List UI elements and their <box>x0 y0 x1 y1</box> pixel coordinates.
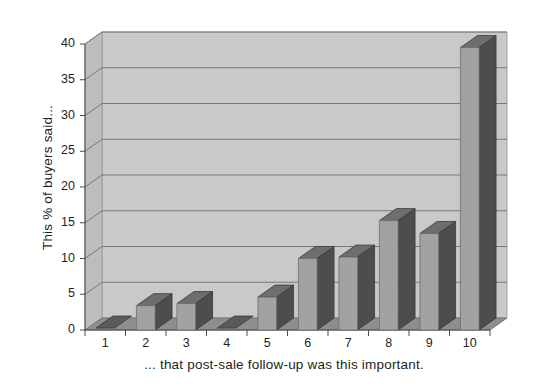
y-tick-label-35: 35 <box>49 72 75 86</box>
x-tick-label-2: 2 <box>126 336 167 350</box>
bar-side-10 <box>479 36 496 330</box>
plot-area <box>0 0 534 389</box>
y-tick-label-10: 10 <box>49 251 75 265</box>
bar-7 <box>339 257 358 330</box>
x-tick-label-9: 9 <box>409 336 450 350</box>
x-tick-label-4: 4 <box>207 336 248 350</box>
y-tick-label-20: 20 <box>49 179 75 193</box>
chart-figure: This % of buyers said... ... that post-s… <box>0 0 534 389</box>
y-tick-label-40: 40 <box>49 36 75 50</box>
x-tick-label-5: 5 <box>247 336 288 350</box>
x-tick-label-8: 8 <box>369 336 410 350</box>
y-tick-label-0: 0 <box>49 322 75 336</box>
x-tick-label-10: 10 <box>450 336 491 350</box>
bar-chart-svg <box>0 0 534 389</box>
bar-2 <box>136 306 155 330</box>
y-tick-label-25: 25 <box>49 143 75 157</box>
bar-3 <box>177 304 196 330</box>
bar-side-9 <box>439 221 456 330</box>
x-tick-label-3: 3 <box>166 336 207 350</box>
x-tick-label-6: 6 <box>288 336 329 350</box>
y-tick-label-5: 5 <box>49 286 75 300</box>
bar-side-8 <box>398 209 415 330</box>
bar-10 <box>460 48 479 330</box>
x-tick-label-7: 7 <box>328 336 369 350</box>
bar-side-6 <box>317 247 334 331</box>
bar-6 <box>298 259 317 331</box>
y-tick-label-30: 30 <box>49 108 75 122</box>
x-tick-label-1: 1 <box>85 336 126 350</box>
bar-9 <box>420 233 439 330</box>
bar-5 <box>258 297 277 330</box>
bar-8 <box>379 221 398 330</box>
bar-side-7 <box>358 245 375 330</box>
y-tick-label-15: 15 <box>49 215 75 229</box>
